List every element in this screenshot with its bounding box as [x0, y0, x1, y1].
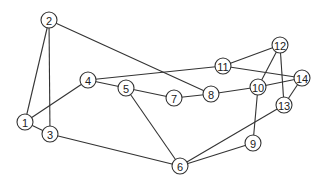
node-7: 7	[166, 90, 182, 106]
node-4: 4	[80, 72, 96, 88]
node-10: 10	[250, 79, 266, 95]
node-label: 13	[278, 100, 290, 112]
node-12: 12	[272, 37, 288, 53]
node-6: 6	[172, 158, 188, 174]
edge-3-6	[50, 134, 180, 166]
node-label: 1	[22, 117, 28, 129]
edge-11-12	[223, 45, 280, 66]
node-11: 11	[215, 58, 231, 74]
node-label: 2	[46, 15, 52, 27]
edge-1-4	[25, 80, 88, 122]
node-label: 12	[274, 40, 286, 52]
node-14: 14	[294, 70, 310, 86]
node-2: 2	[41, 12, 57, 28]
node-label: 3	[47, 129, 53, 141]
node-label: 9	[250, 138, 256, 150]
node-label: 6	[177, 161, 183, 173]
node-label: 7	[171, 93, 177, 105]
node-label: 4	[85, 75, 91, 87]
node-3: 3	[42, 126, 58, 142]
graph-diagram: 1234567891011121314	[0, 0, 332, 189]
edge-2-3	[49, 20, 50, 134]
node-label: 10	[252, 82, 264, 94]
node-1: 1	[17, 114, 33, 130]
edge-9-6	[180, 143, 253, 166]
node-label: 11	[217, 61, 228, 73]
node-label: 14	[296, 73, 308, 85]
node-9: 9	[245, 135, 261, 151]
edge-13-6	[180, 105, 284, 166]
node-label: 8	[208, 89, 214, 101]
node-5: 5	[118, 80, 134, 96]
node-8: 8	[203, 86, 219, 102]
nodes-layer: 1234567891011121314	[17, 12, 310, 174]
node-label: 5	[123, 83, 129, 95]
node-13: 13	[276, 97, 292, 113]
edge-11-14	[223, 66, 302, 78]
edge-1-2	[25, 20, 49, 122]
